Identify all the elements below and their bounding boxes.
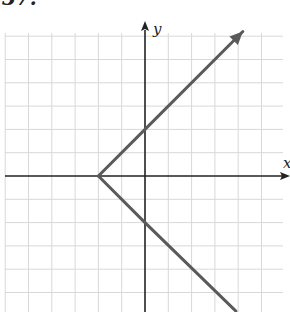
coordinate-plane: yx: [0, 0, 290, 312]
upper-ray-line: [98, 32, 242, 176]
y-axis-label: y: [152, 20, 162, 38]
y-axis-arrow-icon: [141, 21, 149, 31]
x-axis-label: x: [283, 154, 290, 172]
graph-figure: 37. yx: [0, 0, 290, 312]
